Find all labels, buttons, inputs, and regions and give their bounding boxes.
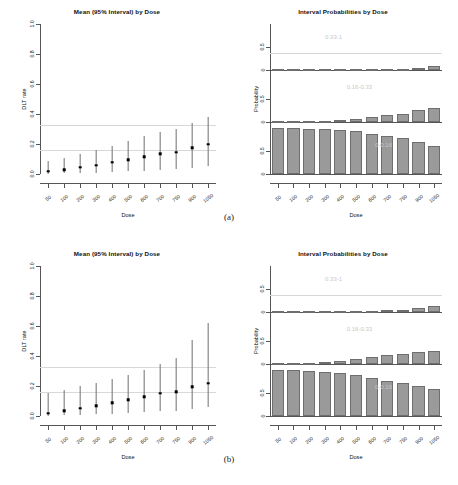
panel-a-mean-data-point: [63, 168, 66, 171]
panel-b-mean-error-bar: [176, 358, 177, 411]
panel-b-mean-y-tick-label: 0.8: [28, 292, 34, 299]
panel-a-interval-x-tick-label: 1050: [428, 192, 440, 204]
panel-a-interval-bar: [287, 121, 299, 123]
panel-b-interval-bar: [303, 311, 315, 313]
panel-a-mean-x-tick-label: 1050: [202, 192, 214, 204]
panel-a-interval-bar: [303, 129, 315, 174]
panel-b-interval-x-tick-label: 750: [398, 435, 408, 445]
panel-b-interval-plot: Probability00.50.33-100.50.16-0.3300.50-…: [270, 266, 442, 416]
panel-a-mean-x-tick: [144, 184, 145, 188]
panel-b-interval-bar: [350, 359, 362, 364]
panel-b-mean-x-tick-label: 300: [91, 435, 101, 445]
panel-a-mean-error-bar: [128, 141, 129, 171]
panel-a-mean-error-bar: [80, 154, 81, 173]
panel-a-interval-bar: [397, 138, 409, 174]
panel-b-interval-baseline: [270, 416, 442, 417]
panel-a-interval-bar: [319, 129, 331, 174]
panel-a-interval-plot: Probability00.50.33-100.50.16-0.3300.50-…: [270, 24, 442, 174]
panel-a-interval-x-tick: [325, 184, 326, 188]
panel-a-interval-x-tick-label: 300: [320, 193, 330, 203]
panel-a-interval-bar: [272, 69, 284, 71]
panel-a-interval-x-tick-label: 600: [366, 193, 376, 203]
panel-a-interval-y-tick: [266, 99, 270, 100]
panel-a-mean-x-tick: [96, 184, 97, 188]
panel-b-interval-x-tick: [387, 426, 388, 430]
panel-b-interval-x-tick: [278, 426, 279, 430]
panel-a-interval-bar: [350, 69, 362, 71]
panel-b-interval-bar: [428, 306, 440, 312]
panel-b-mean-y-tick: [36, 356, 40, 357]
panel-b-mean-data-point: [159, 392, 162, 395]
panel-b-mean-x-tick: [128, 426, 129, 430]
panel-a-interval-baseline: [270, 174, 442, 175]
panel-b-interval-title: Interval Probabilities by Dose: [232, 250, 454, 257]
panel-a-mean-x-tick: [128, 184, 129, 188]
panel-a-interval-y-tick-label: 0.5: [258, 95, 264, 102]
panel-b-mean-data-point: [63, 410, 66, 413]
panel-b-interval-bar: [366, 311, 378, 313]
panel-b-interval-y-tick: [266, 364, 270, 365]
panel-b-interval-bar: [303, 363, 315, 365]
panel-b-interval-y-tick-label: 0: [261, 311, 267, 314]
panel-b-mean-reference-line: [40, 367, 216, 368]
panel-a-interval-bar: [272, 128, 284, 174]
panel-a-interval-title: Interval Probabilities by Dose: [232, 8, 454, 15]
panel-b-interval-y-tick: [266, 341, 270, 342]
panel-a-interval-y-tick-label: 0: [261, 121, 267, 124]
panel-b-interval-x-tick: [340, 426, 341, 430]
panel-b-interval-y-tick-label: 0.5: [258, 389, 264, 396]
panel-a-mean-reference-line: [40, 125, 216, 126]
panel-b-interval-group-label-target: 0.16-0.33: [347, 326, 372, 332]
panel-b-interval-bar: [303, 371, 315, 416]
panel-a-mean-data-point: [143, 155, 146, 158]
panel-b-interval-subpanel: 00.5: [270, 266, 442, 312]
panel-b-mean-x-tick: [208, 426, 209, 430]
panel-b-mean-data-point: [191, 386, 194, 389]
panel-b-interval-subpanel: 00.5: [270, 370, 442, 416]
panel-a-interval-y-tick: [266, 174, 270, 175]
panel-b-interval-bar: [381, 355, 393, 364]
panel-b-interval-bar: [287, 363, 299, 365]
panel-a-mean-y-tick-label: 0.0: [28, 170, 34, 177]
panel-a-interval-x-tick-label: 400: [335, 193, 345, 203]
panel-b-interval-y-tick: [266, 312, 270, 313]
panel-b-interval-x-tick: [419, 426, 420, 430]
panel-a-interval-bar: [303, 69, 315, 71]
panel-b-interval-y-tick: [266, 289, 270, 290]
panel-b-mean-x-tick-label: 200: [75, 435, 85, 445]
panel-a-mean-error-bar: [96, 150, 97, 173]
panel-a-mean-data-point: [207, 143, 210, 146]
panel-b-interval-bar: [272, 311, 284, 313]
panel-a-interval-x-tick-label: 900: [413, 193, 423, 203]
panel-b-mean-plot: 0.00.20.40.60.81.0DLT rate50100200300400…: [40, 266, 216, 416]
panel-b-interval-bar: [350, 375, 362, 416]
panel-a-mean-error-bar: [160, 132, 161, 170]
panel-b-interval-bar: [397, 354, 409, 364]
panel-b-interval-bar: [319, 362, 331, 364]
panel-a-interval-bar: [272, 121, 284, 123]
panel-b-interval-bar: [428, 351, 440, 364]
panel-b-mean-x-tick-label: 500: [123, 435, 133, 445]
panel-b-interval-y-tick-label: 0: [261, 363, 267, 366]
panel-a-interval-bar: [428, 146, 440, 174]
panel-b-interval-x-tick: [372, 426, 373, 430]
panel-a-mean-data-point: [111, 161, 114, 164]
panel-a-mean-y-tick: [36, 84, 40, 85]
panel-a-interval-subpanel: 00.5: [270, 76, 442, 122]
panel-b-mean-y-tick: [36, 386, 40, 387]
panel-b-mean-x-tick-label: 400: [107, 435, 117, 445]
panel-a-interval-x-tick-label: 700: [382, 193, 392, 203]
panel-a-interval-subpanel: 00.5: [270, 128, 442, 174]
panel-a-mean: Mean (95% Interval) by Dose 0.00.20.40.6…: [6, 0, 228, 222]
panel-a-interval-group-label-high: 0.33-1: [325, 34, 342, 40]
panel-b-mean-y-tick: [36, 296, 40, 297]
panel-b-interval-bar: [397, 310, 409, 312]
panel-a-interval-bar: [397, 69, 409, 71]
panel-b-interval-bar: [272, 370, 284, 416]
panel-a-mean-y-tick: [36, 144, 40, 145]
panel-a-mean-x-tick: [192, 184, 193, 188]
panel-a-mean-x-tick: [176, 184, 177, 188]
panel-b-mean-data-point: [175, 390, 178, 393]
panel-a-interval-bar: [428, 66, 440, 70]
panel-b-interval-x-tick-label: 1050: [428, 434, 440, 446]
